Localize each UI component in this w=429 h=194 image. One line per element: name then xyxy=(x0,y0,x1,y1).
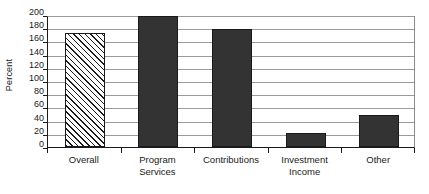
x-axis-tick-mark xyxy=(194,148,195,153)
y-axis-tick-label: 20 xyxy=(18,127,44,136)
bar xyxy=(286,133,326,147)
y-axis-tick-labels: 020406080100120140160180200 xyxy=(18,12,44,148)
y-axis-tick-label: 160 xyxy=(18,34,44,43)
x-axis-category-label-line1: Contributions xyxy=(203,154,259,165)
x-axis-category-label: Contributions xyxy=(194,154,268,166)
x-axis-category-label: ProgramServices xyxy=(121,154,195,178)
x-axis-category-label-line1: Overall xyxy=(69,154,99,165)
x-axis-category-label: Other xyxy=(341,154,415,166)
y-axis-tick-label: 180 xyxy=(18,21,44,30)
y-axis-tick-label: 200 xyxy=(18,8,44,17)
x-axis-category-label-line1: Investment xyxy=(281,154,327,165)
bar-chart: Percent 020406080100120140160180200 Over… xyxy=(0,0,429,194)
y-axis-title: Percent xyxy=(0,0,18,150)
x-axis-tick-mark xyxy=(47,148,48,153)
y-axis-title-text: Percent xyxy=(4,59,14,91)
y-axis-tick-label: 140 xyxy=(18,48,44,57)
x-axis-tick-mark xyxy=(121,148,122,153)
x-axis-category-label-line2: Services xyxy=(121,166,195,178)
bar xyxy=(65,33,105,147)
x-axis-category-label: Overall xyxy=(47,154,121,166)
x-axis-category-label-line1: Other xyxy=(366,154,390,165)
y-axis-tick-label: 40 xyxy=(18,114,44,123)
bar xyxy=(212,29,252,147)
y-axis-tick-label: 60 xyxy=(18,100,44,109)
plot-area xyxy=(47,16,415,148)
x-axis-category-label-line2: Income xyxy=(268,166,342,178)
x-axis-tick-mark xyxy=(341,148,342,153)
bars-group xyxy=(48,17,414,147)
y-axis-tick-label: 0 xyxy=(18,140,44,149)
y-axis-tick-label: 120 xyxy=(18,61,44,70)
y-axis-tick-label: 100 xyxy=(18,74,44,83)
x-axis-category-label: InvestmentIncome xyxy=(268,154,342,178)
x-axis-tick-marks xyxy=(47,148,415,153)
y-axis-tick-label: 80 xyxy=(18,87,44,96)
x-axis-tick-mark xyxy=(268,148,269,153)
x-axis-tick-mark xyxy=(414,148,415,153)
x-axis-category-labels: OverallProgramServicesContributionsInves… xyxy=(47,154,415,194)
x-axis-category-label-line1: Program xyxy=(139,154,175,165)
bar xyxy=(138,16,178,147)
bar xyxy=(359,115,399,147)
